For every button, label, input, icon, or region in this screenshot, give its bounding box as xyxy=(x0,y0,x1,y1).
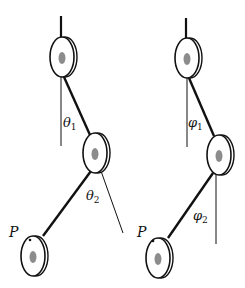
left-pendulum: θ1 θ2 P xyxy=(8,16,123,276)
left-rod-2 xyxy=(43,171,91,236)
left-disc-p xyxy=(21,236,48,276)
left-point-p-label: P xyxy=(8,224,19,240)
right-disc-p xyxy=(146,238,173,278)
left-angle-1-label: θ1 xyxy=(63,115,77,132)
left-extension-reference-2 xyxy=(101,171,123,233)
right-pendulum: φ1 φ2 P xyxy=(136,18,234,278)
right-disc-2 xyxy=(207,135,234,175)
diagram-canvas: θ1 θ2 P φ1 φ2 P xyxy=(0,0,245,288)
left-point-p-dot xyxy=(29,239,32,242)
left-disc-1 xyxy=(50,37,77,77)
right-angle-2-label: φ2 xyxy=(193,208,208,225)
left-angle-2-label: θ2 xyxy=(86,188,100,205)
right-angle-1-label: φ1 xyxy=(188,115,203,132)
right-point-p-label: P xyxy=(136,224,147,240)
double-pendulum-diagram: θ1 θ2 P φ1 φ2 P xyxy=(0,0,245,288)
right-point-p-dot xyxy=(152,240,155,243)
right-disc-1 xyxy=(175,38,202,78)
left-disc-2 xyxy=(83,133,110,173)
right-rod-2 xyxy=(168,173,213,238)
